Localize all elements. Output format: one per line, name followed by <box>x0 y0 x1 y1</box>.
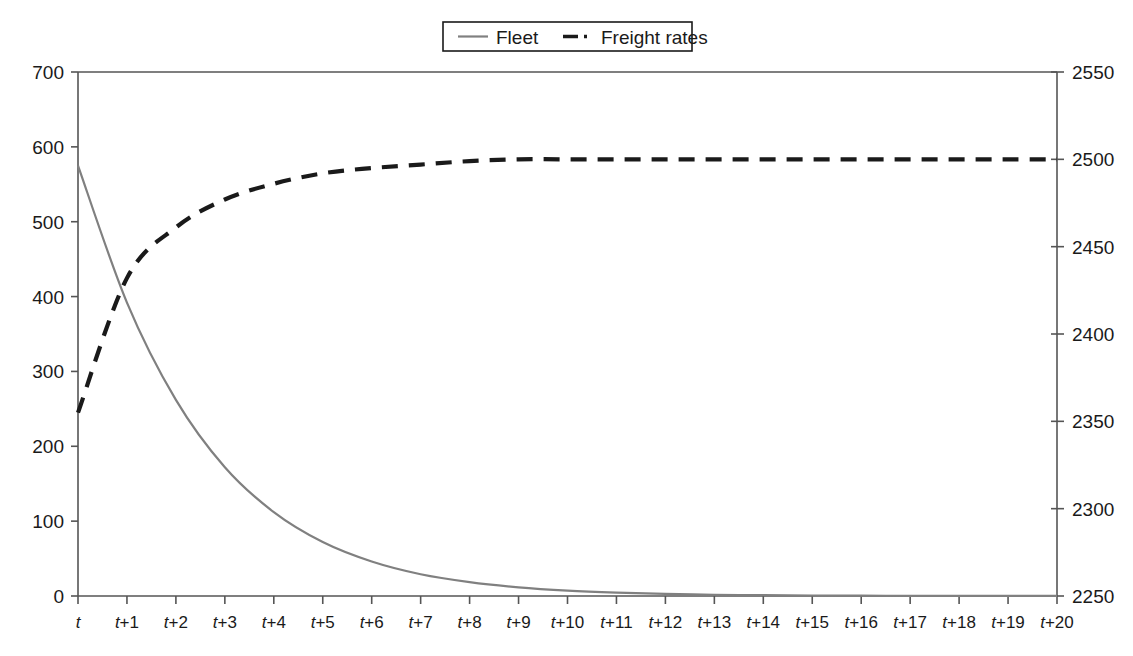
left-axis-tick-label: 300 <box>32 361 64 382</box>
x-axis-tick-label: t+8 <box>458 613 482 632</box>
x-axis-tick-label: t+3 <box>213 613 237 632</box>
x-axis-tick-label: t+11 <box>600 613 632 632</box>
right-axis-tick-label: 2550 <box>1072 62 1114 83</box>
x-axis: tt+1t+2t+3t+4t+5t+6t+7t+8t+9t+10t+11t+12… <box>76 596 1074 632</box>
x-axis-tick-label: t+1 <box>115 613 139 632</box>
x-axis-tick-label: t+14 <box>747 613 781 632</box>
x-axis-tick-label: t+9 <box>506 613 530 632</box>
x-axis-tick-label: t+15 <box>795 613 829 632</box>
x-axis-tick-label: t+13 <box>698 613 732 632</box>
left-axis-tick-label: 600 <box>32 137 64 158</box>
x-axis-tick-label: t+20 <box>1040 613 1074 632</box>
x-axis-tick-label: t <box>76 613 82 632</box>
right-axis-tick-label: 2500 <box>1072 149 1114 170</box>
x-axis-tick-label: t+16 <box>844 613 878 632</box>
x-axis-tick-label: t+18 <box>942 613 976 632</box>
left-axis-tick-label: 400 <box>32 287 64 308</box>
right-axis-tick-label: 2300 <box>1072 499 1114 520</box>
legend-label-fleet: Fleet <box>496 27 539 48</box>
x-axis-tick-label: t+10 <box>551 613 585 632</box>
right-axis-tick-label: 2350 <box>1072 411 1114 432</box>
chart-canvas: FleetFreight rates 010020030040050060070… <box>0 0 1133 656</box>
right-axis-tick-label: 2450 <box>1072 237 1114 258</box>
x-axis-tick-label: t+17 <box>893 613 927 632</box>
x-axis-tick-label: t+7 <box>409 613 433 632</box>
plot-frame <box>78 72 1057 596</box>
right-y-axis: 2250230023502400245025002550 <box>1051 62 1114 607</box>
left-axis-tick-label: 500 <box>32 212 64 233</box>
x-axis-tick-label: t+5 <box>311 613 335 632</box>
left-axis-tick-label: 700 <box>32 62 64 83</box>
left-axis-tick-label: 0 <box>53 586 64 607</box>
series-line-fleet <box>78 166 1057 596</box>
x-axis-tick-label: t+12 <box>649 613 683 632</box>
x-axis-tick-label: t+2 <box>164 613 188 632</box>
x-axis-tick-label: t+4 <box>262 613 286 632</box>
chart-figure: FleetFreight rates 010020030040050060070… <box>0 0 1133 656</box>
left-y-axis: 0100200300400500600700 <box>32 62 78 607</box>
chart-legend: FleetFreight rates <box>443 22 708 51</box>
right-axis-tick-label: 2400 <box>1072 324 1114 345</box>
x-axis-tick-label: t+19 <box>991 613 1025 632</box>
right-axis-tick-label: 2250 <box>1072 586 1114 607</box>
left-axis-tick-label: 100 <box>32 511 64 532</box>
left-axis-tick-label: 200 <box>32 436 64 457</box>
x-axis-tick-label: t+6 <box>360 613 384 632</box>
chart-series <box>78 159 1057 596</box>
series-line-freight-rates <box>78 159 1057 412</box>
legend-label-freight-rates: Freight rates <box>601 27 708 48</box>
